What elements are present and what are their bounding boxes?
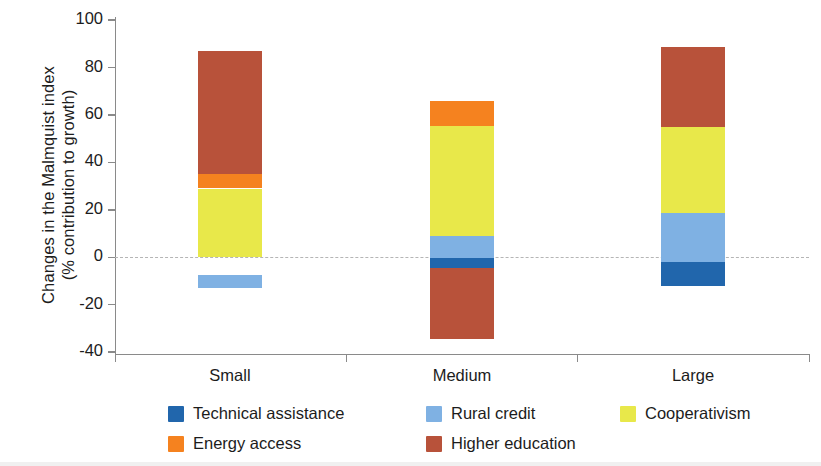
- x-tick-label-large: Large: [613, 366, 773, 385]
- legend: Technical assistanceRural creditCooperat…: [168, 404, 808, 462]
- bar-segment-energy-access[interactable]: [430, 101, 494, 126]
- legend-item-technical-assistance[interactable]: Technical assistance: [168, 404, 344, 423]
- legend-label: Cooperativism: [645, 404, 750, 423]
- y-tick-mark: [108, 67, 115, 68]
- legend-label: Rural credit: [451, 404, 535, 423]
- y-tick-label: 20: [43, 199, 103, 218]
- bar-segment-higher-education[interactable]: [661, 47, 725, 126]
- bar-large[interactable]: [661, 14, 725, 354]
- x-axis-line: [115, 354, 809, 355]
- y-tick-label: -40: [43, 341, 103, 360]
- y-tick-mark: [108, 351, 115, 352]
- malmquist-stacked-bar-chart: Changes in the Malmquist index (% contri…: [0, 0, 821, 466]
- y-axis-title-line-1: Changes in the Malmquist index: [38, 66, 58, 304]
- legend-item-higher-education[interactable]: Higher education: [426, 434, 576, 453]
- legend-item-cooperativism[interactable]: Cooperativism: [620, 404, 750, 423]
- x-tick-mark: [577, 354, 578, 362]
- x-tick-mark: [346, 354, 347, 362]
- y-tick-label: 60: [43, 104, 103, 123]
- y-tick-mark: [108, 209, 115, 210]
- y-tick-mark: [108, 257, 115, 258]
- x-tick-mark: [115, 354, 116, 362]
- x-tick-mark: [809, 354, 810, 362]
- legend-item-rural-credit[interactable]: Rural credit: [426, 404, 535, 423]
- y-tick-label: 80: [43, 57, 103, 76]
- bar-segment-cooperativism[interactable]: [661, 127, 725, 214]
- bar-segment-rural-credit[interactable]: [198, 275, 262, 288]
- y-tick-label: -20: [43, 294, 103, 313]
- bar-segment-higher-education[interactable]: [198, 51, 262, 174]
- x-tick-label-small: Small: [150, 366, 310, 385]
- bar-segment-cooperativism[interactable]: [430, 126, 494, 236]
- x-tick-label-medium: Medium: [382, 366, 542, 385]
- y-tick-label: 40: [43, 151, 103, 170]
- legend-label: Technical assistance: [193, 404, 344, 423]
- legend-swatch-icon: [168, 436, 184, 452]
- legend-swatch-icon: [168, 406, 184, 422]
- legend-swatch-icon: [426, 436, 442, 452]
- bar-segment-technical-assistance[interactable]: [661, 262, 725, 286]
- y-axis-line: [115, 17, 116, 355]
- bar-segment-rural-credit[interactable]: [661, 213, 725, 262]
- bar-segment-rural-credit[interactable]: [430, 236, 494, 259]
- y-tick-mark: [108, 162, 115, 163]
- y-tick-label: 100: [43, 9, 103, 28]
- y-tick-mark: [108, 114, 115, 115]
- legend-label: Higher education: [451, 434, 576, 453]
- y-tick-mark: [108, 19, 115, 20]
- bottom-rule: [0, 462, 821, 466]
- bar-segment-technical-assistance[interactable]: [430, 258, 494, 267]
- bar-medium[interactable]: [430, 14, 494, 354]
- bar-segment-higher-education[interactable]: [430, 268, 494, 339]
- plot-area: 100806040200-20-40 SmallMediumLarge: [115, 14, 809, 348]
- legend-item-energy-access[interactable]: Energy access: [168, 434, 301, 453]
- legend-label: Energy access: [193, 434, 301, 453]
- bar-segment-cooperativism[interactable]: [198, 189, 262, 258]
- legend-swatch-icon: [426, 406, 442, 422]
- bar-small[interactable]: [198, 14, 262, 354]
- bar-segment-energy-access[interactable]: [198, 174, 262, 188]
- legend-swatch-icon: [620, 406, 636, 422]
- y-tick-mark: [108, 304, 115, 305]
- y-tick-label: 0: [43, 246, 103, 265]
